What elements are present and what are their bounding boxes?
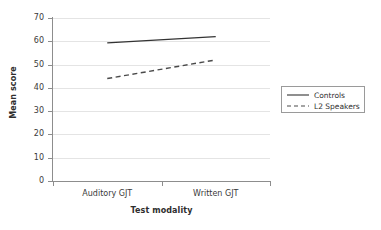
y-tick-label: 60 [16, 36, 44, 45]
legend-label-l2-speakers: L2 Speakers [314, 102, 360, 111]
gridline [53, 65, 270, 66]
line-chart-figure: Mean score Test modality Controls L2 Spe… [0, 0, 381, 230]
y-tick-mark [48, 18, 53, 19]
plot-area [53, 18, 270, 181]
x-axis-title: Test modality [53, 206, 270, 215]
y-tick-mark [48, 134, 53, 135]
x-tick-label: Auditory GJT [53, 189, 162, 198]
gridline [53, 41, 270, 42]
y-tick-label: 0 [16, 176, 44, 185]
legend-swatch-solid-icon [286, 91, 310, 99]
y-tick-mark [48, 111, 53, 112]
gridline [53, 88, 270, 89]
x-tick-mark [270, 181, 271, 186]
y-tick-mark [48, 88, 53, 89]
y-tick-label: 20 [16, 129, 44, 138]
gridline [53, 134, 270, 135]
x-tick-label: Written GJT [162, 189, 271, 198]
x-tick-mark [162, 181, 163, 186]
y-tick-label: 70 [16, 13, 44, 22]
gridline [53, 18, 270, 19]
y-tick-label: 40 [16, 83, 44, 92]
x-tick-mark [53, 181, 54, 186]
y-tick-label: 50 [16, 60, 44, 69]
y-tick-mark [48, 65, 53, 66]
legend-item-controls: Controls [286, 90, 360, 100]
legend-box: Controls L2 Speakers [281, 86, 365, 113]
y-tick-mark [48, 158, 53, 159]
gridline [53, 158, 270, 159]
legend-item-l2-speakers: L2 Speakers [286, 101, 360, 111]
gridline [53, 111, 270, 112]
y-tick-label: 30 [16, 106, 44, 115]
legend-label-controls: Controls [314, 91, 345, 100]
legend-swatch-dashed-icon [286, 102, 310, 110]
x-axis-title-text: Test modality [131, 206, 193, 215]
y-tick-mark [48, 41, 53, 42]
y-tick-label: 10 [16, 153, 44, 162]
